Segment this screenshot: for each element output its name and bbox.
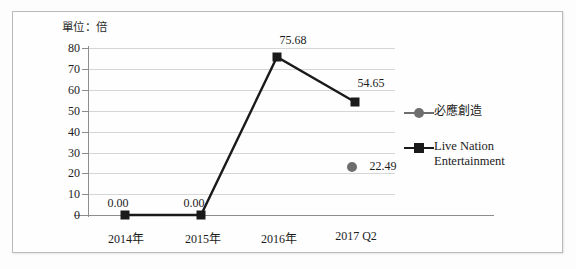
- x-ticklabel-2016: 2016年: [261, 229, 297, 247]
- y-axis-ticklabels: 80 70 60 50 40 30 20 10 0: [48, 0, 80, 269]
- y-tickmark-30: [82, 153, 88, 154]
- x-ticklabel-2015: 2015年: [185, 229, 221, 247]
- legend-item-bixing[interactable]: 必應創造: [404, 104, 554, 121]
- legend-item-live-nation[interactable]: Live Nation Entertainment: [404, 139, 554, 169]
- y-tickmark-70: [82, 69, 88, 70]
- x-axis-line: [74, 215, 494, 216]
- y-tickmark-60: [82, 90, 88, 91]
- y-axis-line: [88, 46, 89, 217]
- y-ticklabel-10: 10: [50, 188, 80, 200]
- datalabel-2014-live-nation: 0.00: [108, 196, 129, 211]
- x-ticklabel-2017q2: 2017 Q2: [335, 229, 377, 244]
- y-tickmark-10: [82, 194, 88, 195]
- chart-legend: 必應創造 Live Nation Entertainment: [404, 104, 554, 187]
- plot-area: [88, 48, 395, 215]
- y-tickmark-0: [82, 215, 88, 216]
- y-ticklabel-70: 70: [50, 63, 80, 75]
- y-ticklabel-0: 0: [50, 209, 80, 221]
- legend-label-live-nation: Live Nation Entertainment: [434, 139, 505, 169]
- legend-square-marker-icon: [404, 140, 434, 156]
- datalabel-2016-live-nation: 75.68: [280, 33, 307, 48]
- y-tickmark-80: [82, 48, 88, 49]
- y-ticklabel-50: 50: [50, 105, 80, 117]
- datalabel-2017-live-nation: 54.65: [358, 76, 385, 91]
- y-tickmark-20: [82, 173, 88, 174]
- y-ticklabel-20: 20: [50, 167, 80, 179]
- x-ticklabel-2014: 2014年: [108, 229, 144, 247]
- legend-label-bixing: 必應創造: [434, 104, 482, 119]
- y-ticklabel-60: 60: [50, 84, 80, 96]
- gridline-80: [88, 48, 395, 49]
- gridline-10: [88, 194, 395, 195]
- gridline-40: [88, 132, 395, 133]
- y-ticklabel-80: 80: [50, 42, 80, 54]
- x-axis-ticklabels: 2014年 2015年 2016年 2017 Q2: [88, 229, 395, 249]
- gridline-60: [88, 90, 395, 91]
- y-ticklabel-40: 40: [50, 126, 80, 138]
- gridline-20: [88, 173, 395, 174]
- gridline-30: [88, 153, 395, 154]
- datalabel-2015-live-nation: 0.00: [184, 196, 205, 211]
- y-tickmark-40: [82, 132, 88, 133]
- legend-circle-marker-icon: [404, 105, 434, 121]
- y-tickmark-50: [82, 111, 88, 112]
- legend-label-live-nation-line1: Live Nation: [434, 139, 494, 153]
- chart-figure: 單位：倍 80 70 60 50 40 30 20 10 0 2014年 201…: [0, 0, 576, 269]
- y-ticklabel-30: 30: [50, 147, 80, 159]
- legend-label-live-nation-line2: Entertainment: [434, 154, 505, 168]
- gridline-50: [88, 111, 395, 112]
- gridline-70: [88, 69, 395, 70]
- datalabel-2017-bixing: 22.49: [370, 159, 397, 174]
